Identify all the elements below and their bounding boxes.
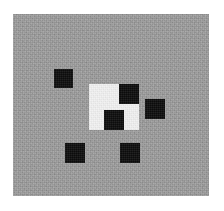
black-square-center xyxy=(104,110,124,130)
black-square-right xyxy=(145,99,165,119)
image-stage xyxy=(0,0,224,211)
black-square-bottom-left xyxy=(65,143,85,163)
black-square-upper-right xyxy=(119,84,139,104)
black-square-bottom-middle xyxy=(120,143,140,163)
gray-noise-field xyxy=(13,14,209,196)
black-square-top-left xyxy=(54,69,73,88)
